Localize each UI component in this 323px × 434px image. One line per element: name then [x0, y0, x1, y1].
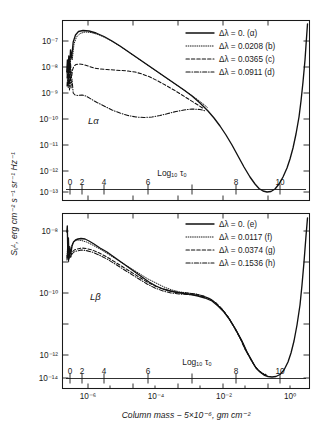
xtick-label: 10⁰ [284, 392, 296, 401]
ytick-label: 10⁻¹⁰ [39, 115, 58, 124]
top-panel-label: Lα [88, 115, 99, 126]
top-panel: 10⁻⁷ 10⁻⁸ 10⁻⁹ 10⁻¹⁰ 10⁻¹¹ 10⁻¹² 10⁻¹³ 0… [39, 21, 309, 201]
figure-svg: 10⁻⁷ 10⁻⁸ 10⁻⁹ 10⁻¹⁰ 10⁻¹¹ 10⁻¹² 10⁻¹³ 0… [0, 0, 323, 434]
bottom-panel-bottom-ticks [88, 384, 290, 389]
inner-tick-label: 2 [80, 178, 85, 187]
legend-label: Δλ = 0. (α) [219, 29, 257, 38]
top-panel-bottom-ticks [88, 196, 268, 201]
figure-container: 10⁻⁷ 10⁻⁸ 10⁻⁹ 10⁻¹⁰ 10⁻¹¹ 10⁻¹² 10⁻¹³ 0… [0, 0, 323, 434]
ytick-label: 10⁻¹¹ [39, 141, 58, 150]
legend-label: Δλ = 0.0374 (g) [219, 246, 275, 255]
bottom-panel: 10⁻⁸ 10⁻¹⁰ 10⁻¹² 10⁻¹⁴ 0 2 4 6 8 10 Log₁ [39, 214, 310, 389]
inner-tick-label: 8 [234, 367, 239, 376]
inner-tick-label: 4 [102, 367, 107, 376]
inner-tick-label: 2 [80, 367, 85, 376]
ytick-label: 10⁻⁹ [41, 89, 58, 98]
curve-b [67, 32, 208, 108]
xtick-label: 10⁻² [216, 392, 232, 401]
top-panel-legend: Δλ = 0. (α) Δλ = 0.0208 (b) Δλ = 0.0365 … [186, 29, 275, 77]
bottom-panel-y-ticklabels: 10⁻⁸ 10⁻¹⁰ 10⁻¹² 10⁻¹⁴ [39, 227, 59, 383]
legend-label: Δλ = 0.0911 (d) [219, 68, 275, 77]
legend-label: Δλ = 0.0208 (b) [219, 42, 275, 51]
legend-label: Δλ = 0.1536 (h) [219, 259, 275, 268]
inner-tick-label: 6 [146, 178, 151, 187]
inner-tick-label: 4 [102, 178, 107, 187]
ytick-label: 10⁻¹³ [39, 188, 58, 197]
top-panel-y-ticklabels: 10⁻⁷ 10⁻⁸ 10⁻⁹ 10⁻¹⁰ 10⁻¹¹ 10⁻¹² 10⁻¹³ [39, 37, 58, 197]
curve-c [67, 64, 204, 109]
bottom-panel-label: Lβ [90, 291, 101, 302]
inner-axis-label: Log₁₀ τ₀ [182, 357, 212, 367]
xtick-label: 10⁻⁴ [148, 392, 165, 401]
top-panel-top-ticks [88, 21, 268, 26]
xtick-label: 10⁻⁶ [80, 392, 96, 401]
inner-tick-label: 0 [68, 178, 73, 187]
ytick-label: 10⁻¹⁰ [39, 289, 58, 298]
inner-tick-label: 0 [68, 367, 73, 376]
inner-axis-label: Log₁₀ τ₀ [157, 168, 187, 178]
bottom-panel-top-ticks [88, 214, 268, 219]
ytick-label: 10⁻¹² [39, 351, 58, 360]
bottom-panel-inner-axis: 0 2 4 6 8 10 Log₁₀ τ₀ [66, 357, 306, 384]
inner-tick-label: 8 [234, 178, 239, 187]
legend-label: Δλ = 0.0365 (c) [219, 55, 275, 64]
ytick-label: 10⁻⁸ [41, 63, 58, 72]
ytick-label: 10⁻⁷ [42, 37, 58, 46]
legend-label: Δλ = 0.0117 (f) [219, 233, 273, 242]
ytick-label: 10⁻⁸ [41, 227, 58, 236]
inner-tick-label: 6 [146, 367, 151, 376]
y-axis-label: Sᵥᴸ, erg cm⁻² s⁻¹ sr⁻¹ Hz⁻¹ [9, 152, 19, 256]
x-axis-label: Column mass − 5×10⁻⁶, gm cm⁻² [122, 410, 252, 420]
ytick-label: 10⁻¹² [39, 167, 58, 176]
legend-label: Δλ = 0. (e) [219, 220, 257, 229]
bottom-panel-legend: Δλ = 0. (e) Δλ = 0.0117 (f) Δλ = 0.0374 … [186, 220, 275, 268]
x-axis-ticklabels: 10⁻⁶ 10⁻⁴ 10⁻² 10⁰ [80, 392, 296, 401]
curve-d [67, 72, 206, 118]
top-panel-inner-axis: 0 2 4 6 8 10 Log₁₀ τ₀ [66, 168, 306, 195]
curve-h [67, 250, 266, 375]
ytick-label: 10⁻¹⁴ [39, 374, 59, 383]
